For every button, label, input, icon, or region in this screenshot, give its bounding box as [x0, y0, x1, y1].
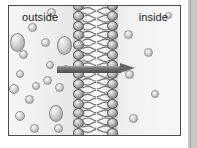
membrane-diffusion-figure: outside inside [8, 5, 181, 136]
lipid-head [107, 99, 118, 109]
lipid-head [107, 11, 118, 21]
lipid-head [107, 60, 118, 70]
solute-molecule [46, 61, 54, 69]
lipid-head [107, 50, 118, 60]
lipid-head-column-inner [107, 5, 118, 136]
lipid-head [107, 108, 118, 118]
lipid-head [73, 79, 84, 89]
solute-molecule [25, 95, 34, 104]
lipid-head [107, 89, 118, 99]
solute-molecule [28, 23, 37, 32]
lipid-head [107, 21, 118, 31]
inside-compartment [114, 6, 180, 135]
solute-molecule [144, 48, 153, 57]
lipid-head [73, 30, 84, 40]
label-outside: outside [22, 11, 58, 23]
solute-molecule [129, 114, 138, 123]
solute-molecule [15, 111, 25, 121]
lipid-head [107, 79, 118, 89]
lipid-head [73, 118, 84, 128]
solute-molecule [62, 65, 70, 73]
bilayer-midline [96, 6, 97, 135]
lipid-head [73, 21, 84, 31]
solute-molecule [30, 124, 39, 133]
lipid-head [107, 40, 118, 50]
lipid-head [73, 108, 84, 118]
solute-molecule [55, 83, 64, 92]
lipid-head [107, 30, 118, 40]
lipid-head [73, 50, 84, 60]
lipid-head [107, 128, 118, 136]
lipid-head [107, 118, 118, 128]
lipid-head [107, 69, 118, 79]
page-right-gutter [188, 0, 197, 148]
lipid-head [73, 89, 84, 99]
solute-molecule [41, 38, 50, 47]
solute-molecule [124, 30, 133, 39]
lipid-head [73, 11, 84, 21]
page-edge-rule [190, 0, 191, 148]
label-inside: inside [139, 11, 168, 23]
solute-molecule [32, 82, 40, 90]
lipid-head-column-outer [73, 5, 84, 136]
solute-molecule [43, 76, 52, 85]
solute-molecule [19, 50, 28, 59]
solute-molecule [151, 90, 159, 98]
solute-molecule [9, 84, 19, 94]
solute-molecule [49, 105, 63, 122]
lipid-head [73, 69, 84, 79]
lipid-head [73, 99, 84, 109]
solute-molecule [125, 70, 134, 79]
lipid-head [73, 60, 84, 70]
solute-molecule [54, 124, 63, 133]
solute-molecule [16, 70, 24, 78]
lipid-head [73, 128, 84, 136]
phospholipid-bilayer-membrane [73, 6, 118, 135]
lipid-head [73, 40, 84, 50]
solute-molecule [57, 36, 72, 55]
